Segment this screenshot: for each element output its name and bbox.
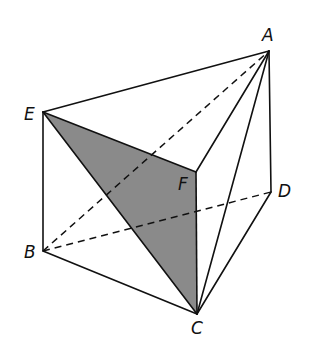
edge-cd <box>197 192 271 314</box>
edge-ad <box>269 51 271 192</box>
edge-ac <box>197 51 269 314</box>
label-b: B <box>24 242 36 262</box>
label-f: F <box>178 174 188 194</box>
edge-fc <box>196 172 197 314</box>
geometry-diagram: A E F D B C <box>0 0 310 355</box>
label-c: C <box>191 318 203 338</box>
label-d: D <box>278 181 291 201</box>
label-e: E <box>24 104 35 124</box>
label-a: A <box>261 25 274 45</box>
edge-fa <box>196 51 269 172</box>
